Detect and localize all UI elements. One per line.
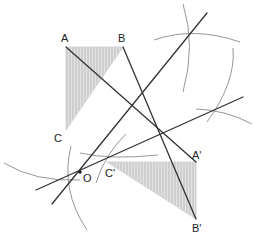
construction-arcs [4, 4, 252, 230]
label-b-prime: B' [192, 222, 201, 234]
arc-2 [154, 33, 240, 42]
arc-4 [196, 109, 252, 124]
construction-diagram: A B C O C' A' B' [0, 0, 254, 234]
label-c-prime: C' [105, 167, 115, 179]
label-a: A [61, 32, 69, 44]
triangle-a-prime-b-prime-c-prime [107, 162, 196, 219]
arc-6 [4, 163, 80, 180]
label-c: C [54, 132, 62, 144]
label-o: O [83, 172, 92, 184]
center-point-o [78, 170, 82, 174]
arc-1 [183, 4, 190, 92]
arc-5 [68, 146, 87, 230]
label-a-prime: A' [192, 149, 201, 161]
triangle-abc [66, 47, 123, 130]
label-b: B [118, 32, 125, 44]
